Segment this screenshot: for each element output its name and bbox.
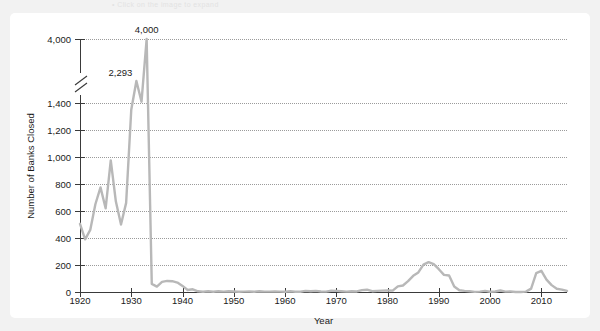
x-tick-label: 1940 (172, 295, 193, 306)
x-tick-label: 1950 (223, 295, 244, 306)
page-top-strip: • Click on the image to expand (0, 0, 600, 13)
y-tick-label: 1,400 (47, 98, 71, 109)
x-tick-label: 1960 (274, 295, 295, 306)
y-axis-title: Number of Banks Closed (25, 113, 36, 219)
x-tick-label: 1980 (377, 295, 398, 306)
chart-panel: 02004006008001,0001,2001,4004,000 192019… (10, 13, 590, 318)
x-tick-label: 1990 (428, 295, 449, 306)
y-tick-label: 1,000 (47, 152, 71, 163)
y-tick-label: 800 (55, 179, 71, 190)
x-tick-label: 2000 (480, 295, 501, 306)
plot-area: 02004006008001,0001,2001,4004,000 192019… (80, 39, 567, 293)
series-line (80, 39, 573, 296)
x-tick-label: 1970 (326, 295, 347, 306)
y-tick-label: 600 (55, 206, 71, 217)
data-label: 2,293 (108, 67, 132, 78)
x-tick-label: 2010 (531, 295, 552, 306)
ghost-caption: • Click on the image to expand (112, 1, 219, 8)
x-tick-label: 1920 (69, 295, 90, 306)
data-label: 4,000 (135, 24, 159, 35)
banks-closed-line (80, 39, 567, 292)
y-tick-label: 400 (55, 233, 71, 244)
y-tick-label: 200 (55, 260, 71, 271)
x-axis-title: Year (314, 315, 333, 326)
y-tick-label: 1,200 (47, 125, 71, 136)
y-tick-label: 4,000 (47, 34, 71, 45)
x-tick-label: 1930 (121, 295, 142, 306)
